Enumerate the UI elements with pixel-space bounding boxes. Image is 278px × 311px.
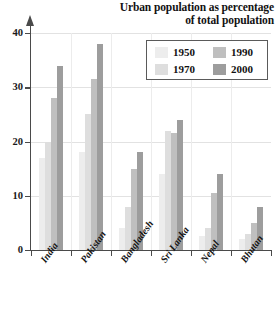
y-tick-label-20: 20 [1, 137, 23, 148]
legend-swatch-1970 [155, 64, 168, 75]
legend-label-1990: 1990 [231, 45, 253, 59]
bar-chart: Urban population as percentage of total … [0, 0, 278, 311]
x-tick-6 [271, 250, 272, 256]
bar-nepal-2000 [217, 174, 223, 250]
legend-swatch-1990 [213, 47, 226, 58]
x-tick-0 [31, 250, 32, 256]
y-tick-10 [25, 196, 31, 197]
x-tick-4 [191, 250, 192, 256]
x-tick-1 [71, 250, 72, 256]
legend-swatch-1950 [155, 47, 168, 58]
y-tick-label-40: 40 [1, 28, 23, 39]
y-tick-30 [25, 87, 31, 88]
legend-label-1950: 1950 [173, 45, 195, 59]
x-tick-3 [151, 250, 152, 256]
legend: 1950 1990 1970 2000 [146, 40, 268, 80]
legend-swatch-2000 [213, 64, 226, 75]
x-tick-2 [111, 250, 112, 256]
legend-label-1970: 1970 [173, 62, 195, 76]
chart-title: Urban population as percentage of total … [74, 1, 274, 26]
gridline-x-2 [111, 33, 112, 250]
y-tick-20 [25, 142, 31, 143]
y-tick-40 [25, 33, 31, 34]
chart-title-line-1: Urban population as percentage [74, 1, 274, 14]
x-tick-5 [231, 250, 232, 256]
legend-label-2000: 2000 [231, 62, 253, 76]
bar-pakistan-2000 [97, 44, 103, 250]
y-tick-label-30: 30 [1, 82, 23, 93]
y-tick-label-10: 10 [1, 191, 23, 202]
chart-title-line-2: of total population [74, 14, 274, 27]
gridline-x-1 [71, 33, 72, 250]
bar-india-2000 [57, 66, 63, 250]
y-axis [30, 25, 31, 251]
y-tick-label-0: 0 [1, 245, 23, 256]
